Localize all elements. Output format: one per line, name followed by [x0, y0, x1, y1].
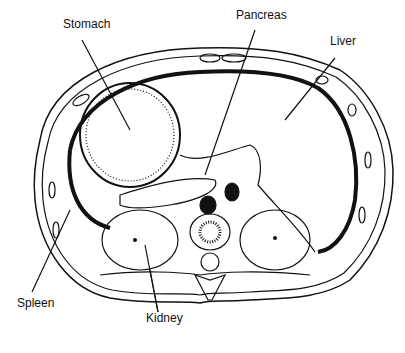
abdomen-cross-section: [0, 0, 405, 353]
label-pancreas: Pancreas: [236, 8, 287, 22]
label-spleen: Spleen: [17, 296, 54, 310]
label-stomach: Stomach: [63, 17, 110, 31]
label-liver: Liver: [330, 34, 356, 48]
label-kidney: Kidney: [146, 311, 183, 325]
